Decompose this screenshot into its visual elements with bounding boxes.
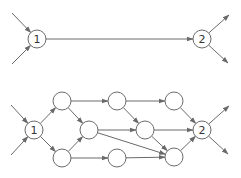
node-label: 1 — [34, 33, 41, 46]
network-diagram: 1212 — [0, 0, 241, 178]
arrow-edge — [40, 136, 55, 151]
arrow-edge — [180, 136, 195, 151]
arrow-edge — [11, 105, 28, 123]
arrow-edge — [68, 108, 83, 124]
arrow-edge — [209, 106, 229, 124]
node-label-1: 1 — [25, 121, 43, 139]
arrow-edge — [40, 107, 55, 123]
node-label: 1 — [31, 124, 38, 137]
node-label-2: 2 — [193, 30, 211, 48]
node-circle — [80, 121, 98, 139]
arrow-edge — [209, 45, 228, 63]
arrow-edge — [126, 157, 165, 158]
node-circle — [165, 92, 183, 110]
node-e_top — [165, 92, 183, 110]
node-d_mid — [136, 121, 154, 139]
arrow-edge — [180, 107, 195, 123]
arrow-edge — [12, 45, 31, 64]
node-c_bot — [108, 149, 126, 167]
arrow-edge — [98, 133, 166, 155]
node-a_bot — [53, 149, 71, 167]
node-circle — [53, 149, 71, 167]
node-e_bot — [165, 148, 183, 166]
nodes-layer: 1212 — [25, 30, 211, 167]
node-circle — [53, 92, 71, 110]
node-a_top — [53, 92, 71, 110]
arrow-edge — [11, 137, 28, 155]
arrow-edge — [209, 136, 228, 154]
node-label-1: 1 — [28, 30, 46, 48]
node-circle — [108, 149, 126, 167]
node-label: 2 — [199, 33, 206, 46]
node-label: 2 — [199, 124, 206, 137]
node-b_mid — [80, 121, 98, 139]
node-circle — [108, 92, 126, 110]
arrow-edge — [152, 136, 168, 151]
node-circle — [136, 121, 154, 139]
arrow-edge — [123, 107, 138, 123]
arrow-edge — [12, 13, 31, 33]
node-label-2: 2 — [193, 121, 211, 139]
arrow-edge — [68, 136, 83, 151]
node-circle — [165, 148, 183, 166]
node-c_top — [108, 92, 126, 110]
arrow-edge — [209, 15, 229, 33]
